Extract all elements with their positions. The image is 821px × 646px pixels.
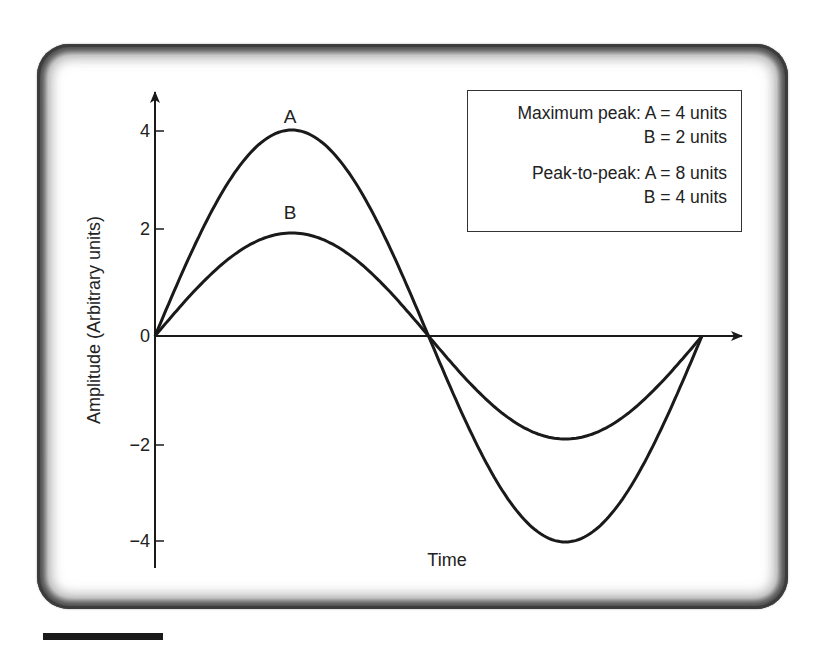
legend-peak-to-peak-a: Peak-to-peak: A = 8 units [468,161,727,185]
y-tick-neg2: −2 [110,435,150,456]
legend-max-peak-b: B = 2 units [468,125,727,149]
y-tick-2: 2 [110,219,150,240]
curve-b-label: B [284,202,297,224]
y-axis-label: Amplitude (Arbitrary units) [84,216,105,424]
y-tick-4: 4 [110,121,150,142]
y-tick-0: 0 [110,326,150,347]
curve-a-label: A [284,106,297,128]
y-tick-neg4: −4 [110,531,150,552]
legend-max-peak-a: Maximum peak: A = 4 units [468,101,727,125]
scale-bar [43,633,163,640]
legend-peak-to-peak-b: B = 4 units [468,185,727,209]
legend-box: Maximum peak: A = 4 units B = 2 units Pe… [467,90,742,232]
x-axis-label: Time [427,550,466,571]
